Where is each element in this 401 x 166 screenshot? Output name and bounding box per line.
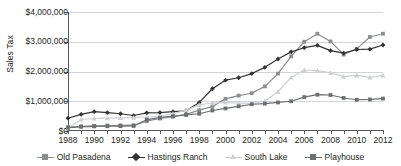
legend-label: Old Pasadena (57, 152, 111, 162)
legend-item-hastings-ranch[interactable]: Hastings Ranch (128, 152, 208, 162)
series-layer (0, 0, 401, 166)
data-point-marker (315, 93, 319, 97)
data-point-marker (302, 40, 306, 44)
data-point-marker (197, 112, 201, 116)
data-point-marker (158, 116, 162, 120)
data-point-marker (79, 112, 84, 117)
data-point-marker (263, 102, 267, 106)
data-point-marker (224, 106, 228, 110)
data-point-marker (368, 98, 372, 102)
data-point-marker (289, 75, 294, 80)
data-point-marker (92, 124, 96, 128)
data-point-marker (105, 124, 109, 128)
legend-label: Playhouse (325, 152, 365, 162)
data-point-marker (132, 124, 136, 128)
legend-swatch (37, 154, 54, 161)
legend-swatch (128, 154, 145, 161)
data-point-marker (315, 32, 319, 36)
data-point-marker (237, 94, 241, 98)
data-point-marker (368, 35, 372, 39)
data-point-marker (119, 124, 123, 128)
data-point-marker (171, 114, 175, 118)
data-point-marker (105, 110, 110, 115)
data-point-marker (329, 40, 333, 44)
data-point-marker (145, 118, 149, 122)
data-point-marker (250, 102, 254, 106)
data-point-marker (367, 47, 372, 52)
data-point-marker (289, 99, 293, 103)
data-point-marker (66, 116, 71, 121)
data-point-marker (250, 91, 254, 95)
legend-item-old-pasadena[interactable]: Old Pasadena (37, 152, 111, 162)
legend-swatch (305, 154, 322, 161)
data-point-marker (381, 43, 386, 48)
data-point-marker (249, 71, 254, 76)
data-point-marker (210, 105, 214, 109)
data-point-marker (276, 101, 280, 105)
data-point-marker (66, 126, 70, 130)
data-point-marker (236, 75, 241, 80)
chart-legend: Old PasadenaHastings RanchSouth LakePlay… (0, 150, 401, 164)
data-point-marker (276, 72, 280, 76)
legend-label: Hastings Ranch (148, 152, 208, 162)
data-point-marker (328, 48, 333, 53)
data-point-marker (355, 98, 359, 102)
data-point-marker (237, 104, 241, 108)
data-point-marker (302, 45, 307, 50)
data-point-marker (289, 54, 293, 58)
data-point-marker (381, 32, 385, 36)
data-point-marker (302, 95, 306, 99)
data-point-marker (289, 49, 294, 54)
data-point-marker (210, 109, 214, 113)
data-point-marker (92, 109, 97, 114)
legend-label: South Lake (245, 152, 288, 162)
legend-item-playhouse[interactable]: Playhouse (305, 152, 365, 162)
data-point-marker (79, 125, 83, 129)
legend-item-south-lake[interactable]: South Lake (225, 152, 288, 162)
data-point-marker (263, 84, 267, 88)
sales-tax-line-chart: Sales Tax $0$1,000,000$2,000,000$3,000,0… (0, 0, 401, 166)
data-point-marker (381, 97, 385, 101)
data-point-marker (184, 113, 188, 117)
data-point-marker (315, 43, 320, 48)
legend-swatch (225, 154, 242, 161)
data-point-marker (197, 108, 201, 112)
data-point-marker (342, 96, 346, 100)
data-point-marker (329, 93, 333, 97)
